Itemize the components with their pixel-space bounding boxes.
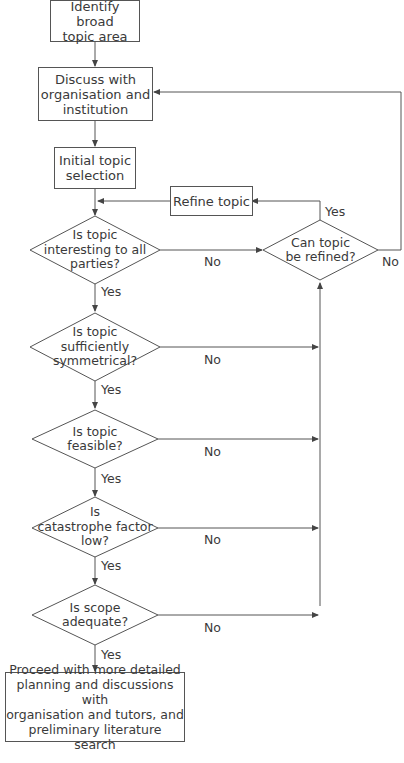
decision-scope-adequate: Is scope adequate? — [32, 585, 158, 645]
node-text-line: adequate? — [62, 615, 128, 630]
node-text-line: Discuss with — [41, 72, 150, 87]
edge-canrefine-refine — [252, 201, 320, 220]
decision-can-topic-be-refined: Can topic be refined? — [263, 220, 378, 280]
decision-sufficiently-symmetrical: Is topic sufficiently symmetrical? — [30, 313, 160, 381]
node-text-line: Refine topic — [173, 194, 250, 209]
node-text-line: Identify broad — [51, 0, 139, 29]
node-text-line: interesting to all — [44, 243, 146, 258]
edge-label-no: No — [204, 444, 221, 459]
node-text-line: organisation and — [41, 87, 150, 102]
node-text-line: symmetrical? — [53, 354, 137, 369]
node-text-line: planning and discussions with — [6, 677, 184, 707]
edge-label-yes: Yes — [325, 204, 345, 219]
edge-label-no: No — [382, 254, 399, 269]
edge-label-no: No — [204, 352, 221, 367]
node-text-line: parties? — [44, 257, 146, 272]
edge-label-yes: Yes — [101, 382, 121, 397]
node-identify-topic-area: Identify broad topic area — [50, 0, 140, 42]
node-text-line: Is topic — [67, 425, 122, 440]
node-text-line: topic area — [51, 29, 139, 44]
node-text-line: be refined? — [285, 250, 355, 265]
node-text-line: Initial topic — [59, 153, 131, 168]
node-text-line: institution — [41, 102, 150, 117]
decision-topic-feasible: Is topic feasible? — [32, 410, 158, 468]
node-text-line: Is — [37, 505, 152, 520]
node-text-line: low? — [37, 534, 152, 549]
node-text-line: Can topic — [285, 236, 355, 251]
node-text-line: preliminary literature search — [6, 722, 184, 752]
flowchart: Identify broad topic area Discuss with o… — [0, 0, 404, 763]
edge-label-yes: Yes — [101, 558, 121, 573]
edge-label-yes: Yes — [101, 647, 121, 662]
node-text-line: Proceed with more detailed — [6, 662, 184, 677]
node-refine-topic: Refine topic — [170, 186, 253, 216]
node-text-line: feasible? — [67, 439, 122, 454]
node-text-line: Is scope — [62, 601, 128, 616]
decision-catastrophe-factor-low: Is catastrophe factor low? — [32, 497, 158, 557]
node-text-line: catastrophe factor — [37, 520, 152, 535]
edge-label-no: No — [204, 620, 221, 635]
edge-label-yes: Yes — [101, 284, 121, 299]
node-text-line: organisation and tutors, and — [6, 707, 184, 722]
edge-label-no: No — [204, 254, 221, 269]
decision-interesting-to-all-parties: Is topic interesting to all parties? — [30, 216, 160, 284]
node-text-line: Is topic — [53, 325, 137, 340]
node-text-line: sufficiently — [53, 340, 137, 355]
node-text-line: selection — [59, 168, 131, 183]
node-discuss-with-organisation: Discuss with organisation and institutio… — [38, 67, 153, 121]
node-text-line: Is topic — [44, 228, 146, 243]
edge-label-yes: Yes — [101, 471, 121, 486]
edge-label-no: No — [204, 532, 221, 547]
node-initial-topic-selection: Initial topic selection — [54, 147, 136, 189]
node-proceed-with-planning: Proceed with more detailed planning and … — [5, 672, 185, 742]
